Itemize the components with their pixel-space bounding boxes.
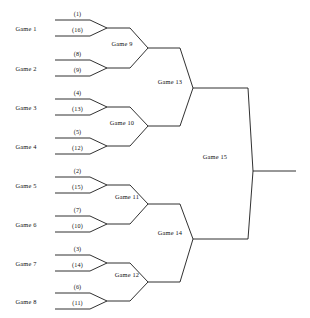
round3-game-label-1: Game 13 [158, 78, 182, 85]
round1-game-label-5: Game 5 [16, 182, 37, 189]
seed-label: (2) [74, 168, 82, 174]
round1-wedge-upper [90, 293, 107, 301]
round3-wedge-lower [180, 239, 193, 282]
seed-label: (1) [74, 11, 82, 17]
seed-label: (6) [74, 284, 82, 290]
round2-game-label-4: Game 12 [115, 271, 139, 278]
seed-label: (11) [72, 300, 83, 306]
round3-game-label-2: Game 14 [158, 229, 182, 236]
round2-game-label-3: Game 11 [115, 193, 139, 200]
seed-label: (4) [74, 90, 82, 96]
bracket-lines [0, 0, 310, 318]
round1-wedge-upper [90, 177, 107, 185]
round1-wedge-upper [90, 255, 107, 263]
final-wedge-lower [248, 171, 253, 239]
seed-label: (10) [72, 223, 83, 229]
round1-wedge-upper [90, 20, 107, 28]
round1-game-label-8: Game 8 [16, 298, 37, 305]
round1-wedge-upper [90, 216, 107, 224]
final-wedge-upper [248, 88, 253, 171]
round2-wedge-lower [130, 126, 148, 146]
round1-game-label-1: Game 1 [16, 25, 37, 32]
round1-game-label-7: Game 7 [16, 260, 37, 267]
seed-label: (12) [72, 145, 83, 151]
final-game-label: Game 15 [203, 153, 227, 160]
seed-label: (16) [72, 27, 83, 33]
round2-wedge-lower [130, 282, 148, 301]
round1-wedge-upper [90, 60, 107, 68]
round2-wedge-upper [130, 28, 148, 48]
seed-label: (9) [74, 67, 82, 73]
seed-label: (13) [72, 106, 83, 112]
round2-game-label-2: Game 10 [110, 119, 134, 126]
round1-wedge-lower [90, 263, 107, 271]
seed-label: (5) [74, 129, 82, 135]
round1-game-label-3: Game 3 [16, 104, 37, 111]
round2-wedge-lower [130, 48, 148, 68]
round1-wedge-lower [90, 185, 107, 193]
round1-wedge-lower [90, 301, 107, 309]
round1-wedge-lower [90, 107, 107, 115]
seed-label: (15) [72, 184, 83, 190]
round3-wedge-lower [180, 88, 193, 126]
round1-wedge-upper [90, 138, 107, 146]
round1-wedge-upper [90, 99, 107, 107]
round1-game-label-4: Game 4 [16, 143, 37, 150]
seed-label: (3) [74, 246, 82, 252]
round2-game-label-1: Game 9 [112, 40, 133, 47]
round1-wedge-lower [90, 28, 107, 36]
seed-label: (7) [74, 207, 82, 213]
round1-wedge-lower [90, 224, 107, 232]
round1-wedge-lower [90, 146, 107, 154]
seed-label: (8) [74, 51, 82, 57]
seed-label: (14) [72, 262, 83, 268]
round1-game-label-2: Game 2 [16, 65, 37, 72]
round1-wedge-lower [90, 68, 107, 76]
tournament-bracket-diagram: Game 1(1)(16)Game 2(8)(9)Game 3(4)(13)Ga… [0, 0, 310, 318]
round2-wedge-lower [130, 204, 148, 224]
round1-game-label-6: Game 6 [16, 221, 37, 228]
